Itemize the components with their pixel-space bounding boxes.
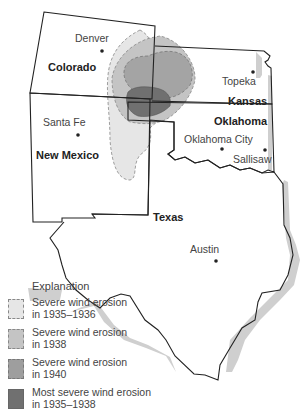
legend-item-1940: Severe wind erosion in 1940: [8, 356, 208, 382]
swatch-most-severe-icon: [8, 389, 24, 409]
denver-dot: [100, 49, 104, 53]
legend-label-line1: Most severe wind erosion: [32, 386, 151, 398]
sallisaw-dot: [263, 148, 267, 152]
austin-dot: [214, 259, 218, 263]
oklahoma-city-dot: [220, 147, 224, 151]
state-label-colorado: Colorado: [48, 61, 96, 73]
city-label-santa-fe: Santa Fe: [43, 116, 86, 128]
state-label-oklahoma: Oklahoma: [214, 115, 267, 127]
legend-title: Explanation: [32, 280, 208, 292]
city-label-austin: Austin: [190, 243, 219, 255]
city-label-oklahoma-city: Oklahoma City: [184, 133, 253, 145]
legend-label-line2: in 1935–1938: [32, 398, 151, 410]
state-label-kansas: Kansas: [228, 95, 267, 107]
city-label-sallisaw: Sallisaw: [233, 153, 272, 165]
state-label-new-mexico: New Mexico: [36, 149, 99, 161]
city-label-topeka: Topeka: [222, 75, 256, 87]
state-label-texas: Texas: [153, 211, 183, 223]
legend-item-1938: Severe wind erosion in 1938: [8, 326, 208, 352]
swatch-1935-1936-icon: [8, 299, 24, 319]
legend-item-most-severe: Most severe wind erosion in 1935–1938: [8, 386, 208, 412]
city-label-denver: Denver: [75, 32, 109, 44]
swatch-1938-icon: [8, 329, 24, 349]
swatch-1940-icon: [8, 359, 24, 379]
legend-label-line1: Severe wind erosion: [32, 296, 127, 308]
santa-fe-dot: [76, 133, 80, 137]
legend-label-line1: Severe wind erosion: [32, 326, 127, 338]
legend-label-line2: in 1935–1936: [32, 308, 127, 320]
legend-label-line2: in 1940: [32, 368, 127, 380]
legend-label-line2: in 1938: [32, 338, 127, 350]
topeka-dot: [251, 70, 255, 74]
legend-item-1935-1936: Severe wind erosion in 1935–1936: [8, 296, 208, 322]
legend: Explanation Severe wind erosion in 1935–…: [8, 280, 208, 413]
legend-label-line1: Severe wind erosion: [32, 356, 127, 368]
